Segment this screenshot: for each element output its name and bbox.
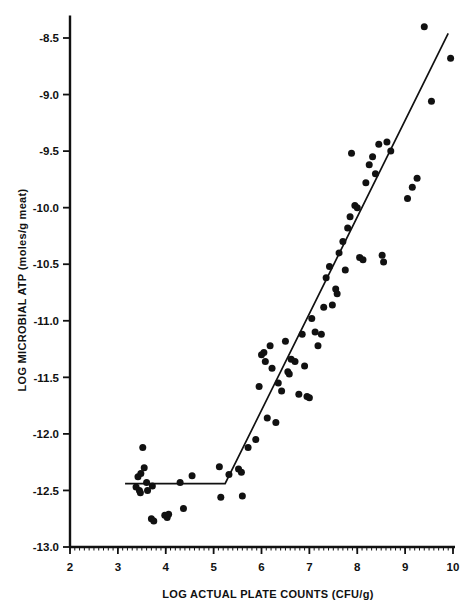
data-point (447, 55, 454, 62)
data-point (256, 383, 263, 390)
data-point (180, 505, 187, 512)
data-point (177, 479, 184, 486)
y-tick-label: -11.5 (33, 372, 59, 384)
y-tick-label: -8.5 (39, 32, 59, 44)
x-tick-label: 10 (447, 561, 460, 573)
chart-figure: -8.5-9.0-9.5-10.0-10.5-11.0-11.5-12.0-12… (0, 0, 468, 611)
x-tick-label: 7 (306, 561, 312, 573)
data-point (262, 358, 269, 365)
data-point (409, 184, 416, 191)
data-point (286, 370, 293, 377)
data-point (278, 387, 285, 394)
y-axis-title: LOG MICROBIAL ATP (moles/g meat) (16, 188, 28, 391)
data-point (272, 419, 279, 426)
data-point (260, 349, 267, 356)
data-point (380, 258, 387, 265)
data-point (314, 342, 321, 349)
data-point (252, 436, 259, 443)
data-point (383, 139, 390, 146)
data-point (239, 493, 246, 500)
data-point (149, 482, 156, 489)
data-point (339, 238, 346, 245)
data-point (165, 511, 172, 518)
data-point (359, 256, 366, 263)
data-point (344, 225, 351, 232)
data-point (414, 175, 421, 182)
data-point (366, 161, 373, 168)
data-point (150, 517, 157, 524)
x-axis-title: LOG ACTUAL PLATE COUNTS (CFU/g) (162, 588, 373, 600)
data-point (387, 148, 394, 155)
data-point (369, 153, 376, 160)
data-point (362, 179, 369, 186)
data-point (329, 301, 336, 308)
data-point (217, 494, 224, 501)
data-point (404, 195, 411, 202)
data-point (326, 263, 333, 270)
data-point (189, 472, 196, 479)
data-point (264, 415, 271, 422)
data-point (375, 141, 382, 148)
data-point (312, 329, 319, 336)
x-tick-label: 3 (115, 561, 121, 573)
data-point (354, 204, 361, 211)
data-point (137, 489, 144, 496)
data-point (379, 252, 386, 259)
x-tick-label: 4 (163, 561, 170, 573)
data-point (141, 464, 148, 471)
data-point (292, 358, 299, 365)
data-point (348, 150, 355, 157)
data-point (267, 342, 274, 349)
y-tick-label: -11.0 (33, 315, 59, 327)
data-point (275, 379, 282, 386)
data-point (269, 365, 276, 372)
y-tick-label: -9.5 (39, 145, 59, 157)
x-tick-label: 2 (67, 561, 73, 573)
data-point (372, 170, 379, 177)
data-point (347, 213, 354, 220)
data-point (216, 463, 223, 470)
data-point (318, 331, 325, 338)
y-tick-label: -13.0 (33, 541, 59, 553)
data-point (421, 23, 428, 30)
data-point (334, 290, 341, 297)
y-tick-label: -12.0 (33, 428, 59, 440)
x-tick-label: 9 (402, 561, 408, 573)
data-point (308, 315, 315, 322)
data-point (225, 471, 232, 478)
scatter-plot-svg: -8.5-9.0-9.5-10.0-10.5-11.0-11.5-12.0-12… (0, 0, 468, 611)
x-tick-label: 8 (354, 561, 361, 573)
data-point (342, 266, 349, 273)
y-tick-label: -10.5 (33, 258, 60, 270)
y-tick-label: -9.0 (39, 89, 59, 101)
data-point (428, 98, 435, 105)
data-point (320, 304, 327, 311)
y-tick-label: -12.5 (33, 485, 60, 497)
data-point (299, 331, 306, 338)
y-tick-label: -10.0 (33, 202, 59, 214)
data-point (336, 249, 343, 256)
data-point (323, 274, 330, 281)
x-tick-label: 5 (210, 561, 217, 573)
data-point (245, 444, 252, 451)
data-point (301, 363, 308, 370)
data-point (295, 391, 302, 398)
data-point (238, 469, 245, 476)
data-point (306, 394, 313, 401)
x-tick-label: 6 (258, 561, 264, 573)
data-point (282, 338, 289, 345)
data-point (139, 444, 146, 451)
